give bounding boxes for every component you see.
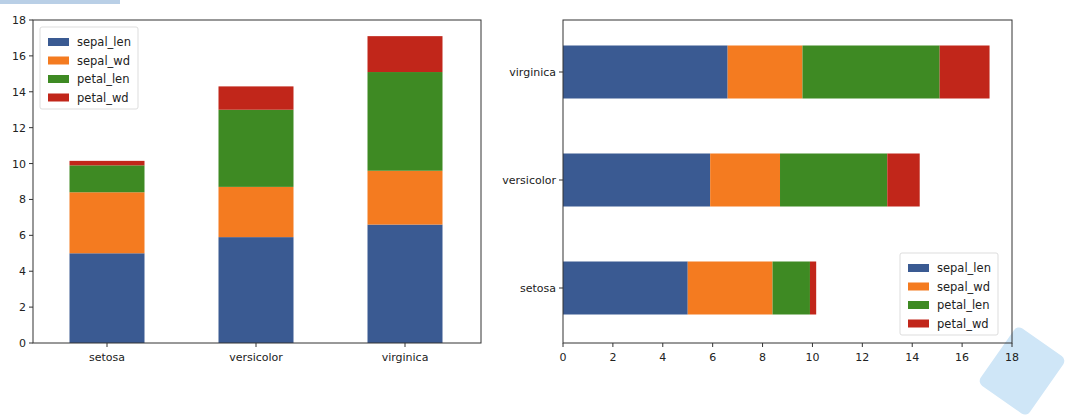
x-tick-label: 2 bbox=[609, 351, 616, 364]
x-tick-label: 8 bbox=[759, 351, 766, 364]
segment-versicolor-petal_wd bbox=[887, 154, 919, 207]
hbar-versicolor bbox=[563, 154, 920, 207]
right-chart-legend: sepal_lensepal_wdpetal_lenpetal_wd bbox=[900, 253, 998, 335]
x-tick-label: 16 bbox=[955, 351, 969, 364]
segment-virginica-petal_wd bbox=[940, 46, 990, 99]
x-tick-label: 12 bbox=[855, 351, 869, 364]
legend-label-sepal_wd: sepal_wd bbox=[937, 280, 990, 294]
segment-setosa-petal_wd bbox=[810, 262, 816, 315]
segment-virginica-sepal_wd bbox=[728, 46, 803, 99]
y-tick-label: virginica bbox=[509, 66, 556, 79]
legend-label-petal_wd: petal_wd bbox=[937, 317, 989, 331]
segment-versicolor-petal_len bbox=[780, 154, 887, 207]
segment-setosa-sepal_wd bbox=[688, 262, 773, 315]
segment-setosa-sepal_len bbox=[563, 262, 688, 315]
hbar-virginica bbox=[563, 46, 990, 99]
y-tick-label: setosa bbox=[520, 282, 556, 295]
legend-label-sepal_len: sepal_len bbox=[937, 261, 991, 275]
legend-swatch-petal_len bbox=[908, 301, 929, 309]
x-tick-label: 4 bbox=[659, 351, 666, 364]
segment-setosa-petal_len bbox=[773, 262, 810, 315]
hbar-setosa bbox=[563, 262, 816, 315]
legend-swatch-sepal_wd bbox=[908, 283, 929, 291]
segment-virginica-petal_len bbox=[802, 46, 939, 99]
legend-swatch-petal_wd bbox=[908, 320, 929, 328]
x-tick-label: 14 bbox=[905, 351, 919, 364]
y-tick-label: versicolor bbox=[502, 174, 556, 187]
x-tick-label: 18 bbox=[1005, 351, 1019, 364]
segment-versicolor-sepal_wd bbox=[710, 154, 780, 207]
x-tick-label: 0 bbox=[560, 351, 567, 364]
x-tick-label: 6 bbox=[709, 351, 716, 364]
x-tick-label: 10 bbox=[805, 351, 819, 364]
legend-label-petal_len: petal_len bbox=[937, 298, 989, 312]
segment-virginica-sepal_len bbox=[563, 46, 728, 99]
segment-versicolor-sepal_len bbox=[563, 154, 710, 207]
legend-swatch-sepal_len bbox=[908, 264, 929, 272]
